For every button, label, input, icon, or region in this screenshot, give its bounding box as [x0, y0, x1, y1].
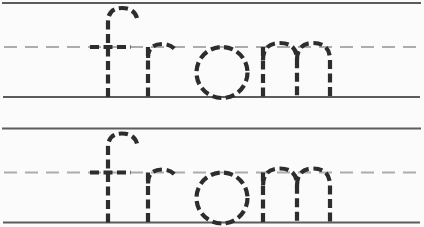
trace-letter-o	[197, 47, 248, 98]
trace-letter-r	[148, 44, 177, 97]
trace-letter-m	[263, 43, 330, 97]
letter-stroke	[197, 47, 248, 98]
trace-letter-f	[90, 134, 137, 223]
trace-letter-o	[197, 173, 248, 224]
letter-stroke	[108, 134, 137, 223]
traceable-word	[90, 134, 330, 224]
letter-stroke	[297, 169, 330, 223]
practice-row-2	[2, 129, 423, 224]
practice-row-1	[2, 3, 423, 98]
letter-stroke	[197, 173, 248, 224]
letter-stroke	[263, 169, 297, 223]
trace-letter-f	[90, 8, 137, 97]
handwriting-worksheet	[0, 0, 424, 227]
trace-letter-m	[263, 169, 330, 223]
traceable-word	[90, 8, 330, 98]
trace-letter-r	[148, 170, 177, 223]
letter-stroke	[263, 43, 297, 97]
letter-stroke	[108, 8, 137, 97]
letter-stroke	[297, 43, 330, 97]
worksheet-canvas	[0, 0, 424, 227]
